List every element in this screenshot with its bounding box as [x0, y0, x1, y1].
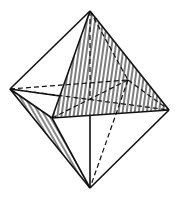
octahedron-diagram [0, 0, 180, 198]
hatched-face-top [52, 11, 169, 118]
